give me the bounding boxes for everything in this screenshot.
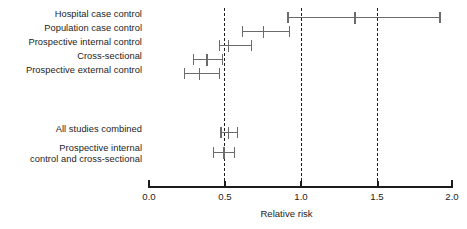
interval-row-0 <box>0 11 467 24</box>
ci-bar <box>184 73 219 74</box>
interval-row-6 <box>0 146 467 159</box>
point-estimate-marker <box>228 127 230 139</box>
point-estimate-marker <box>263 26 265 38</box>
ci-lower-cap <box>220 127 221 138</box>
x-tick-label-4: 2.0 <box>445 191 458 202</box>
ci-upper-cap <box>237 127 238 138</box>
x-tick-0.5 <box>224 181 226 188</box>
x-tick-1.5 <box>377 181 379 188</box>
x-tick-label-0: 0.0 <box>142 191 155 202</box>
point-estimate-marker <box>228 40 230 52</box>
ci-bar <box>219 45 251 46</box>
interval-row-2 <box>0 39 467 52</box>
plot-area <box>0 0 467 229</box>
x-tick-label-2: 1.0 <box>294 191 307 202</box>
x-axis-left-end-cap <box>148 180 150 188</box>
x-tick-label-3: 1.5 <box>370 191 383 202</box>
ci-upper-cap <box>251 40 252 51</box>
ci-upper-cap <box>289 26 290 37</box>
forest-plot: Hospital case control Population case co… <box>0 0 467 229</box>
interval-row-5 <box>0 126 467 139</box>
point-estimate-marker <box>206 54 208 66</box>
point-estimate-marker <box>223 147 225 159</box>
x-tick-1.0 <box>300 181 302 188</box>
ci-lower-cap <box>242 26 243 37</box>
ci-upper-cap <box>219 68 220 79</box>
ci-bar <box>242 31 289 32</box>
ci-upper-cap <box>234 147 235 158</box>
ci-lower-cap <box>287 12 288 23</box>
interval-row-3 <box>0 53 467 66</box>
x-axis-title-text: Relative risk <box>260 208 312 219</box>
x-axis-title: Relative risk <box>0 208 467 219</box>
point-estimate-marker <box>199 68 201 80</box>
ci-lower-cap <box>193 54 194 65</box>
ci-bar <box>288 17 440 18</box>
ci-upper-cap <box>439 12 440 23</box>
point-estimate-marker <box>354 12 356 24</box>
interval-row-1 <box>0 25 467 38</box>
x-tick-label-1: 0.5 <box>218 191 231 202</box>
interval-row-4 <box>0 67 467 80</box>
ci-upper-cap <box>222 54 223 65</box>
ci-lower-cap <box>219 40 220 51</box>
ci-lower-cap <box>184 68 185 79</box>
x-axis-right-end-cap <box>451 180 453 188</box>
ci-lower-cap <box>213 147 214 158</box>
